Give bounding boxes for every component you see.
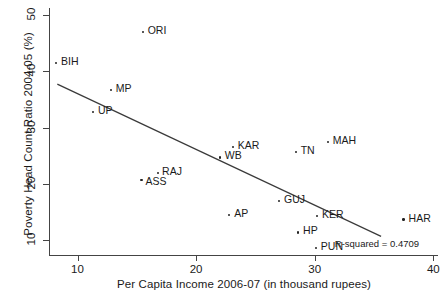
data-point <box>295 151 297 153</box>
data-point-label: HAR <box>409 212 431 224</box>
data-point <box>402 218 404 220</box>
data-point-label: HP <box>303 224 318 236</box>
data-point-label: UP <box>98 104 113 116</box>
data-point-label: AP <box>234 207 248 219</box>
data-point-label: MP <box>116 82 132 94</box>
data-point-label: GUJ <box>284 193 305 205</box>
data-point-label: ORI <box>148 24 167 36</box>
data-point-label: ASS <box>146 175 167 187</box>
data-point-label: KER <box>322 208 344 220</box>
data-point-label: MAH <box>333 134 356 146</box>
data-point-label: BIH <box>61 55 79 67</box>
data-point <box>232 146 234 148</box>
data-point <box>110 89 112 91</box>
data-point <box>140 179 142 181</box>
data-point <box>327 141 329 143</box>
data-point <box>297 231 299 233</box>
data-point <box>219 156 221 158</box>
data-point <box>92 111 94 113</box>
data-point <box>315 247 317 249</box>
data-point-label: WB <box>225 149 242 161</box>
r-squared: R-squared = 0.4709 <box>335 238 419 249</box>
data-point-label: TN <box>301 144 315 156</box>
